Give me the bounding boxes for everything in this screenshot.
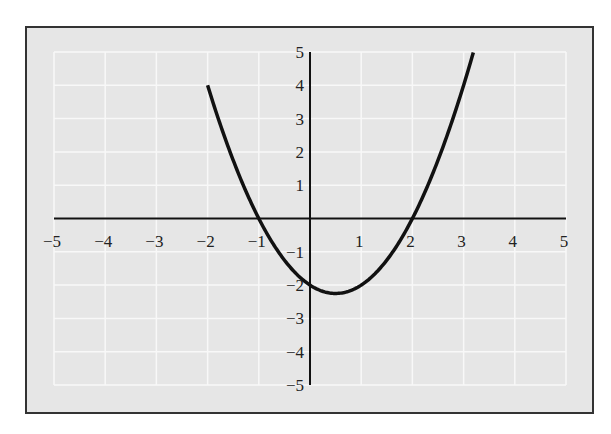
y-tick-label: −1 xyxy=(286,243,304,262)
x-tick-label: −4 xyxy=(94,232,113,251)
y-tick-label: 5 xyxy=(296,43,305,62)
x-tick-label: 4 xyxy=(509,232,518,251)
x-tick-label: −3 xyxy=(145,232,163,251)
x-tick-label: 3 xyxy=(457,232,466,251)
y-tick-label: 1 xyxy=(296,176,305,195)
x-tick-label: −2 xyxy=(197,232,215,251)
y-tick-label: −5 xyxy=(286,376,304,395)
y-tick-label: 2 xyxy=(296,143,305,162)
y-tick-label: 3 xyxy=(296,110,305,129)
x-tick-label: 1 xyxy=(355,232,364,251)
x-tick-label: −1 xyxy=(248,232,266,251)
x-tick-label: 5 xyxy=(560,232,569,251)
x-tick-label: −5 xyxy=(43,232,61,251)
y-tick-label: 4 xyxy=(296,76,305,95)
y-tick-label: −3 xyxy=(286,309,304,328)
function-graph: −5−4−3−2−112345 54321−1−2−3−4−5 xyxy=(0,0,611,434)
y-tick-label: −4 xyxy=(286,343,305,362)
x-tick-label: 2 xyxy=(406,232,415,251)
